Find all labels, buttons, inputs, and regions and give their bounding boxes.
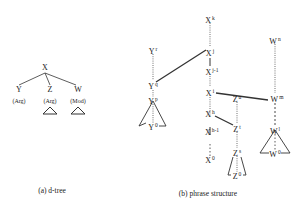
node-xj-1: Xj-1 <box>206 66 219 77</box>
dtree-root-x: X <box>42 64 48 72</box>
node-wl: Wl <box>270 125 280 136</box>
phrase-caption: (b) phrase structure <box>179 189 237 198</box>
node-y0: Y0 <box>148 121 158 132</box>
node-wn: Wn <box>269 35 280 46</box>
dtree-node-y: Y <box>16 86 22 94</box>
node-wm: Wm <box>271 93 284 104</box>
node-zs: Zs <box>233 147 241 158</box>
dtree-role-w: (Mod) <box>70 97 85 105</box>
node-xi: Xi <box>206 87 214 98</box>
dtree-role-y: (Arg) <box>12 97 25 105</box>
dtree-role-z: (Arg) <box>43 97 56 105</box>
node-yq: Yq <box>148 80 158 91</box>
node-w0: W0 <box>269 148 280 159</box>
node-yr: Yr <box>149 45 158 56</box>
dtree-node-w: W <box>74 86 82 94</box>
dtree-caption: (a) d-tree <box>38 186 66 195</box>
node-zu: Zu <box>233 93 242 104</box>
node-z0: Z0 <box>233 170 242 181</box>
node-yp: Yp <box>148 95 158 106</box>
node-xk: Xk <box>205 14 215 25</box>
dtree-node-z: Z <box>48 86 53 94</box>
node-zt: Zt <box>233 123 240 134</box>
node-xh: Xh <box>205 108 215 119</box>
node-xh-1: Xh-1 <box>205 126 219 137</box>
node-x0: X0 <box>205 154 215 165</box>
node-xj: Xj <box>206 47 214 58</box>
